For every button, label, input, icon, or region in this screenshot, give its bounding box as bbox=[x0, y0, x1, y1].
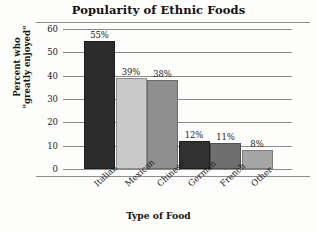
bar-mexican: 39% bbox=[116, 78, 147, 169]
bar-value-label: 38% bbox=[153, 69, 172, 79]
bar-italian: 55% bbox=[84, 41, 115, 169]
bar-value-label: 12% bbox=[185, 130, 204, 140]
y-tick-label-30: 30 bbox=[32, 94, 58, 104]
bar-chinese: 38% bbox=[147, 80, 178, 169]
chart-title: Popularity of Ethnic Foods bbox=[0, 3, 317, 17]
plot-area: 55%39%38%12%11%8% bbox=[63, 29, 292, 169]
bar-value-label: 8% bbox=[250, 139, 263, 149]
y-tick-label-60: 60 bbox=[32, 24, 58, 34]
top-divider-rule bbox=[36, 22, 310, 23]
y-tick-label-20: 20 bbox=[32, 117, 58, 127]
y-tick-label-40: 40 bbox=[32, 71, 58, 81]
x-axis-title: Type of Food bbox=[0, 210, 317, 221]
bar-value-label: 11% bbox=[216, 132, 235, 142]
bar-chart: Popularity of Ethnic Foods Percent who "… bbox=[0, 0, 317, 232]
bar-value-label: 39% bbox=[122, 67, 141, 77]
bar-fill bbox=[84, 41, 115, 169]
bar-value-label: 55% bbox=[90, 30, 109, 40]
bar-fill bbox=[147, 80, 178, 169]
y-tick-label-50: 50 bbox=[32, 47, 58, 57]
bar-fill bbox=[116, 78, 147, 169]
y-tick-label-10: 10 bbox=[32, 141, 58, 151]
y-tick-label-0: 0 bbox=[32, 164, 58, 174]
